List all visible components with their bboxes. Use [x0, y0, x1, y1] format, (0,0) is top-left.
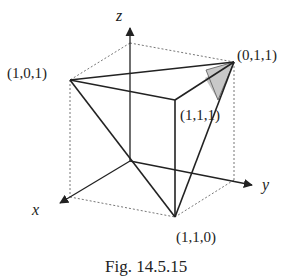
axes [60, 28, 252, 203]
shaded-triangle [206, 62, 234, 100]
vertex-label-110: (1,1,0) [176, 230, 216, 245]
vertex-label-111: (1,1,1) [180, 108, 220, 123]
x-axis-label: x [32, 202, 39, 218]
vertex-label-011: (0,1,1) [237, 48, 277, 63]
y-axis-label: y [262, 177, 269, 193]
z-axis-label: z [116, 8, 122, 24]
vertex-label-101: (1,0,1) [7, 66, 47, 81]
figure-caption: Fig. 14.5.15 [105, 258, 187, 275]
